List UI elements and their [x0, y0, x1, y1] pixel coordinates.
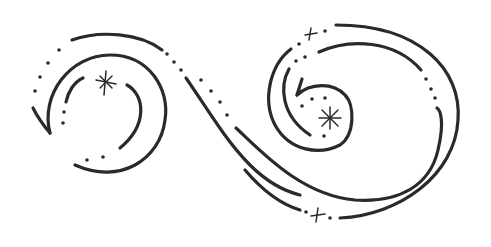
swirl-illustration	[0, 0, 491, 247]
right-upper-arc	[319, 44, 421, 70]
dot	[323, 29, 327, 33]
swirl-svg	[0, 0, 491, 247]
dot	[38, 75, 42, 79]
dot	[85, 158, 89, 162]
dot	[424, 77, 428, 81]
dot	[323, 96, 327, 100]
sparkle-star-icon	[96, 71, 116, 95]
dot	[209, 89, 213, 93]
diagonal-line-2	[236, 108, 442, 200]
dot	[165, 52, 169, 56]
dot	[433, 96, 437, 100]
dot	[218, 100, 222, 104]
sparkle-star-icon	[319, 107, 341, 129]
dot	[328, 216, 332, 220]
dot	[199, 78, 203, 82]
left-outer-top-arc	[72, 34, 162, 50]
swirl-lines	[33, 25, 458, 218]
dot	[429, 87, 433, 91]
dot	[310, 97, 314, 101]
dot	[61, 121, 65, 125]
dot	[304, 210, 308, 214]
left-main-circle	[48, 55, 166, 172]
dot	[46, 61, 50, 65]
dot	[297, 42, 301, 46]
dot	[101, 155, 105, 159]
left-inner-arc-right	[120, 85, 141, 148]
dot	[225, 113, 229, 117]
dot	[57, 48, 61, 52]
dot	[294, 59, 298, 63]
left-inner-arc-left	[66, 78, 83, 102]
sparkle-star-icon	[311, 208, 325, 222]
dot	[172, 60, 176, 64]
sparkle-star-icon	[305, 28, 317, 40]
dot	[322, 134, 326, 138]
dot	[303, 55, 307, 59]
dot	[62, 110, 66, 114]
dot	[179, 68, 183, 72]
dot	[33, 89, 37, 93]
right-inner-curve	[284, 69, 310, 135]
dot	[300, 104, 304, 108]
